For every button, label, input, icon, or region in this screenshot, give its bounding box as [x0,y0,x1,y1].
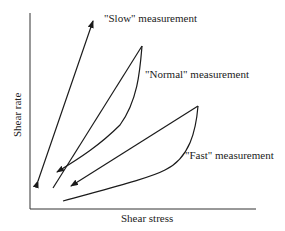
normal-down-curve [57,46,142,172]
fast-up-curve [63,106,198,201]
diagram-canvas [0,0,285,231]
fast-down-curve [71,106,198,186]
fast-measurement-label: "Fast" measurement [185,150,274,161]
normal-measurement-label: "Normal" measurement [145,69,249,80]
slow-measurement-line [38,21,93,181]
y-axis-label: Shear rate [12,93,23,137]
slow-measurement-label: "Slow" measurement [104,13,197,24]
x-axis-label: Shear stress [121,213,173,224]
